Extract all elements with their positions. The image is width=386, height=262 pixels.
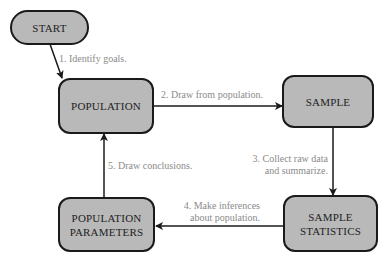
population-parameters-label-line1: POPULATION — [72, 211, 142, 225]
step-3-line2: and summarize. — [246, 165, 328, 177]
sample-node: SAMPLE — [282, 75, 374, 128]
sample-statistics-label-line2: STATISTICS — [300, 224, 361, 238]
step-4-line1: 4. Make inferences — [170, 200, 260, 212]
start-label: START — [32, 21, 66, 35]
sample-statistics-node: SAMPLE STATISTICS — [283, 195, 378, 252]
step-4-line2: about population. — [170, 212, 260, 224]
step-2-label: 2. Draw from population. — [161, 89, 263, 101]
step-3-label: 3. Collect raw data and summarize. — [246, 153, 328, 177]
sample-statistics-label-line1: SAMPLE — [308, 210, 353, 224]
population-label: POPULATION — [71, 99, 141, 113]
step-5-label: 5. Draw conclusions. — [108, 160, 192, 172]
step-1-label: 1. Identify goals. — [59, 53, 127, 65]
sample-label: SAMPLE — [306, 95, 351, 109]
step-3-line1: 3. Collect raw data — [246, 153, 328, 165]
population-parameters-label-line2: PARAMETERS — [70, 225, 144, 239]
population-node: POPULATION — [58, 78, 154, 134]
population-parameters-node: POPULATION PARAMETERS — [58, 197, 155, 252]
step-4-label: 4. Make inferences about population. — [170, 200, 260, 224]
start-node: START — [10, 10, 89, 45]
